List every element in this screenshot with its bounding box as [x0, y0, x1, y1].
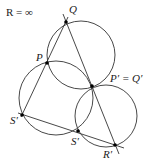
right-circle: [75, 85, 137, 147]
label-S2: S′: [71, 135, 80, 147]
point-labels: Q P P′ = Q′ S′ S′ R′: [10, 3, 143, 160]
label-PQ: P′ = Q′: [109, 72, 143, 84]
point-Q: [64, 20, 68, 24]
label-Q: Q: [69, 3, 77, 15]
diagram-title: R = ∞: [6, 6, 33, 18]
point-PQ: [90, 84, 94, 88]
geometry-diagram: R = ∞ Q P P′ = Q′ S′ S′ R′: [0, 0, 145, 163]
label-R: R′: [102, 148, 113, 160]
point-S2: [76, 129, 80, 133]
label-P: P: [35, 51, 43, 63]
point-R: [113, 143, 117, 147]
label-S1: S′: [10, 114, 19, 126]
line-Q-S: [21, 17, 68, 117]
top-circle: [47, 21, 115, 89]
point-P: [45, 61, 49, 65]
line-Q-R: [63, 14, 119, 154]
point-S1: [20, 113, 24, 117]
